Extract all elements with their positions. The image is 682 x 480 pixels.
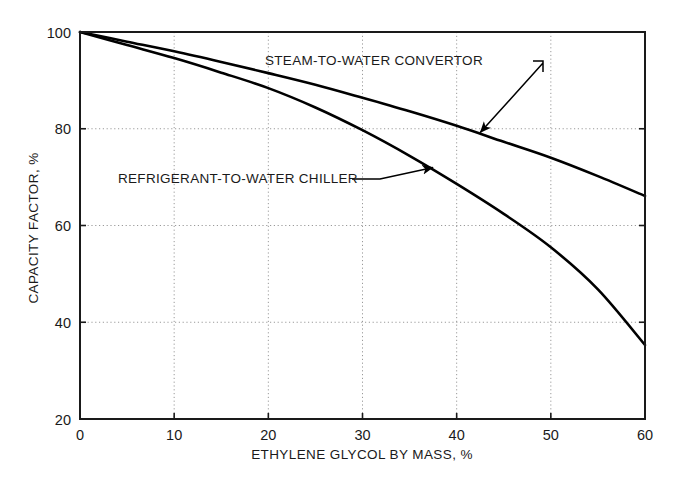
capacity-factor-chart: 0102030405060 20406080100 ETHYLENE GLYCO… [0, 0, 682, 480]
annotation-label-refrigerant-to-water-chiller: REFRIGERANT-TO-WATER CHILLER [118, 171, 358, 186]
x-tick-label: 20 [260, 427, 276, 443]
y-tick-label: 80 [55, 121, 71, 137]
x-tick-label: 60 [637, 427, 653, 443]
y-tick-label: 40 [55, 315, 71, 331]
y-axis-tick-labels: 20406080100 [47, 25, 71, 428]
x-tick-label: 50 [543, 427, 559, 443]
x-tick-label: 40 [449, 427, 465, 443]
y-tick-label: 20 [55, 412, 71, 428]
y-tick-label: 100 [47, 25, 71, 41]
x-tick-label: 30 [354, 427, 370, 443]
figure-container: 0102030405060 20406080100 ETHYLENE GLYCO… [0, 0, 682, 480]
x-axis-title: ETHYLENE GLYCOL BY MASS, % [251, 447, 473, 462]
annotation-label-steam-to-water-convertor: STEAM-TO-WATER CONVERTOR [265, 53, 483, 68]
y-axis-title: CAPACITY FACTOR, % [26, 152, 41, 303]
x-tick-label: 0 [76, 427, 84, 443]
x-axis-tick-labels: 0102030405060 [76, 427, 653, 443]
x-tick-label: 10 [166, 427, 182, 443]
y-tick-label: 60 [55, 218, 71, 234]
